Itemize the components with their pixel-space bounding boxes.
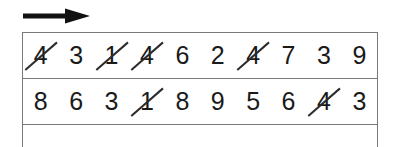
direction-arrow bbox=[22, 7, 92, 25]
digit-value: 7 bbox=[282, 43, 296, 68]
digit-cell[interactable]: 3 bbox=[306, 33, 341, 78]
digit-cell[interactable] bbox=[58, 125, 93, 147]
digit-cell[interactable] bbox=[23, 125, 58, 147]
digit-value: 3 bbox=[317, 43, 331, 68]
digit-value: 8 bbox=[34, 89, 48, 114]
digit-value: 4 bbox=[34, 43, 48, 68]
digit-cell[interactable] bbox=[94, 125, 129, 147]
digit-cell[interactable]: 8 bbox=[165, 79, 200, 124]
digit-cell[interactable]: 6 bbox=[58, 79, 93, 124]
digit-cell-struck[interactable]: 4 bbox=[235, 33, 270, 78]
digit-value: 3 bbox=[69, 43, 83, 68]
number-cancellation-worksheet: 43146247398631895643 bbox=[0, 0, 398, 147]
digit-cell[interactable] bbox=[129, 125, 164, 147]
digit-cell[interactable]: 6 bbox=[271, 79, 306, 124]
digit-value: 3 bbox=[105, 89, 119, 114]
digit-cell-struck[interactable]: 4 bbox=[23, 33, 58, 78]
digit-cell[interactable]: 6 bbox=[165, 33, 200, 78]
digit-cell[interactable]: 8 bbox=[23, 79, 58, 124]
digit-value: 4 bbox=[140, 43, 154, 68]
digit-cell[interactable]: 7 bbox=[271, 33, 306, 78]
digit-cell[interactable] bbox=[306, 125, 341, 147]
digit-cell[interactable]: 3 bbox=[58, 33, 93, 78]
digit-cell[interactable]: 5 bbox=[235, 79, 270, 124]
digit-value: 9 bbox=[211, 89, 225, 114]
digit-cell[interactable]: 3 bbox=[94, 79, 129, 124]
digit-cell-struck[interactable]: 4 bbox=[306, 79, 341, 124]
digit-value: 2 bbox=[211, 43, 225, 68]
digit-cell[interactable] bbox=[235, 125, 270, 147]
digit-cell-struck[interactable]: 1 bbox=[94, 33, 129, 78]
digit-cell[interactable]: 9 bbox=[342, 33, 377, 78]
digit-cell-struck[interactable]: 1 bbox=[129, 79, 164, 124]
digit-value: 6 bbox=[175, 43, 189, 68]
digit-value: 8 bbox=[175, 89, 189, 114]
digit-row: 4314624739 bbox=[23, 33, 377, 79]
digit-value: 4 bbox=[317, 89, 331, 114]
digit-value: 5 bbox=[246, 89, 260, 114]
digit-value: 6 bbox=[69, 89, 83, 114]
digit-cell[interactable] bbox=[165, 125, 200, 147]
digit-cell[interactable]: 2 bbox=[200, 33, 235, 78]
digit-grid: 43146247398631895643 bbox=[22, 32, 378, 147]
digit-cell[interactable]: 3 bbox=[342, 79, 377, 124]
digit-value: 1 bbox=[105, 43, 119, 68]
digit-cell[interactable] bbox=[271, 125, 306, 147]
digit-cell[interactable] bbox=[200, 125, 235, 147]
digit-cell[interactable]: 9 bbox=[200, 79, 235, 124]
digit-cell-struck[interactable]: 4 bbox=[129, 33, 164, 78]
digit-row: 8631895643 bbox=[23, 79, 377, 125]
digit-value: 1 bbox=[140, 89, 154, 114]
digit-value: 3 bbox=[352, 89, 366, 114]
arrow-right-icon bbox=[22, 7, 92, 25]
digit-cell[interactable] bbox=[342, 125, 377, 147]
digit-row bbox=[23, 125, 377, 147]
digit-value: 9 bbox=[352, 43, 366, 68]
digit-value: 4 bbox=[246, 43, 260, 68]
digit-value: 6 bbox=[282, 89, 296, 114]
